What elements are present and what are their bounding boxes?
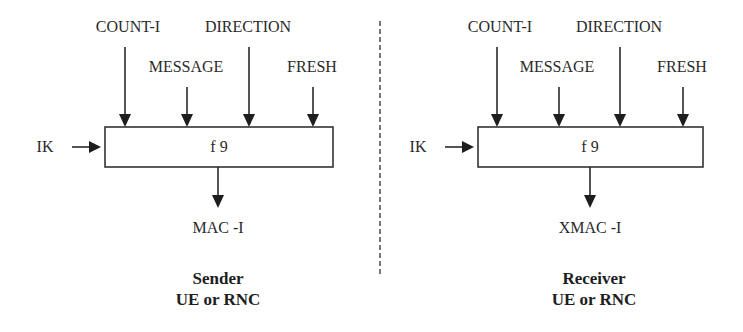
sender-fresh-label: FRESH — [287, 58, 337, 75]
receiver-direction-arrow-icon — [614, 47, 626, 127]
sender-panel: COUNT-I DIRECTION MESSAGE FRESH f 9 IK — [37, 18, 338, 309]
sender-message-label: MESSAGE — [149, 58, 224, 75]
sender-mac-label: MAC -I — [192, 219, 243, 236]
sender-fresh-arrow-icon — [307, 87, 319, 127]
receiver-caption-title: Receiver — [562, 269, 626, 288]
sender-ik-arrow-icon — [72, 141, 101, 153]
receiver-caption-subtitle: UE or RNC — [552, 290, 637, 309]
sender-ik-label: IK — [37, 138, 54, 155]
receiver-fresh-label: FRESH — [657, 58, 707, 75]
receiver-message-arrow-icon — [553, 87, 565, 127]
receiver-f9-label: f 9 — [581, 138, 598, 155]
sender-caption-title: Sender — [193, 269, 244, 288]
receiver-output-arrow-icon — [584, 167, 596, 208]
f9-diagram: COUNT-I DIRECTION MESSAGE FRESH f 9 IK — [0, 0, 743, 332]
sender-count-label: COUNT-I — [96, 18, 160, 35]
sender-caption-subtitle: UE or RNC — [176, 290, 261, 309]
receiver-panel: COUNT-I DIRECTION MESSAGE FRESH f 9 IK — [410, 18, 708, 309]
receiver-xmac-label: XMAC -I — [559, 219, 622, 236]
receiver-direction-label: DIRECTION — [576, 18, 663, 35]
receiver-ik-label: IK — [410, 138, 427, 155]
sender-message-arrow-icon — [181, 87, 193, 127]
sender-count-arrow-icon — [119, 47, 131, 127]
receiver-count-label: COUNT-I — [468, 18, 532, 35]
sender-f9-label: f 9 — [210, 138, 227, 155]
receiver-ik-arrow-icon — [445, 141, 474, 153]
receiver-message-label: MESSAGE — [520, 58, 595, 75]
sender-output-arrow-icon — [212, 167, 224, 208]
receiver-fresh-arrow-icon — [677, 87, 689, 127]
receiver-count-arrow-icon — [491, 47, 503, 127]
sender-direction-arrow-icon — [243, 47, 255, 127]
sender-direction-label: DIRECTION — [205, 18, 292, 35]
